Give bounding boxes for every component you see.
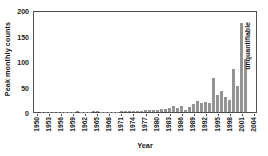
x-axis-tick-label: 2001 — [239, 117, 246, 132]
bar — [120, 111, 123, 112]
y-axis-tick-label: 100 — [17, 59, 29, 66]
bar — [68, 112, 71, 113]
x-axis-tick-label: 1959 — [70, 117, 77, 132]
bar — [204, 102, 207, 112]
bar — [160, 109, 163, 113]
bar — [64, 112, 67, 113]
bar — [232, 69, 235, 112]
y-axis-title-text: Peak monthly counts — [3, 22, 12, 96]
y-axis-tick-label: 150 — [17, 33, 29, 40]
bar — [200, 103, 203, 113]
bar — [220, 91, 223, 113]
x-axis-tick-label: 1950 — [34, 117, 41, 132]
bar-slot — [251, 12, 255, 112]
bar-series — [34, 12, 256, 112]
bar-chart: Peak monthly counts 050100150200 unquant… — [0, 0, 268, 156]
bar — [116, 112, 119, 113]
bar — [148, 110, 151, 112]
y-axis-title: Peak monthly counts — [0, 0, 14, 118]
bar — [132, 111, 135, 112]
x-axis-tick-labels: 1950195319561959196219651968197119741977… — [33, 114, 257, 140]
y-axis-tick-label: 200 — [17, 8, 29, 15]
x-axis-tick-label: 1974 — [130, 117, 137, 132]
x-axis-tick-label: 1986 — [178, 117, 185, 132]
bar — [208, 103, 211, 113]
bar — [124, 111, 127, 112]
y-axis-tick-labels: 050100150200 — [14, 6, 31, 116]
bar — [57, 112, 60, 113]
x-axis-tick-label: 1998 — [227, 117, 234, 132]
bar — [164, 109, 167, 112]
x-axis-tick-label: 1983 — [166, 117, 173, 132]
bar — [76, 111, 79, 112]
bar — [196, 101, 199, 112]
bar — [88, 112, 91, 113]
bar — [136, 111, 139, 113]
x-axis-tick-label: 1968 — [106, 117, 113, 132]
x-axis-title: Year — [33, 141, 257, 150]
bar — [176, 108, 179, 112]
bar — [45, 112, 48, 113]
unquantifiable-annotation: unquantifiable — [244, 22, 251, 108]
bar — [49, 112, 52, 113]
bar — [108, 112, 111, 113]
x-axis-tick-label: 1962 — [82, 117, 89, 132]
x-axis-tick-label: 1971 — [118, 117, 125, 132]
x-axis-tick-label: 1995 — [215, 117, 222, 132]
bar — [240, 23, 243, 113]
bar — [100, 112, 103, 113]
x-axis-tick-label: 1953 — [46, 117, 53, 132]
x-axis-tick-label: 1992 — [202, 117, 209, 132]
bar — [168, 108, 171, 113]
y-axis-tick-label: 0 — [25, 110, 29, 117]
bar — [192, 104, 195, 112]
bar — [216, 95, 219, 113]
bar — [104, 112, 107, 113]
unquantifiable-annotation-text: unquantifiable — [244, 22, 251, 70]
bar — [144, 110, 147, 112]
x-axis-tick-label: 2004 — [251, 117, 258, 132]
bar — [224, 97, 227, 112]
bar — [228, 100, 231, 112]
bar — [236, 86, 239, 113]
bar — [96, 111, 99, 112]
bar — [188, 107, 191, 113]
plot-area: unquantifiable — [33, 11, 257, 113]
x-axis-tick-label: 1980 — [154, 117, 161, 132]
x-axis-tick-label: 1977 — [142, 117, 149, 132]
bar — [128, 111, 131, 112]
bar — [41, 112, 44, 113]
x-axis-tick-label: 1956 — [58, 117, 65, 132]
bar — [152, 110, 155, 112]
bar — [72, 112, 75, 113]
bar — [184, 110, 187, 113]
bar — [84, 112, 87, 113]
bar — [92, 111, 95, 112]
bar — [172, 106, 175, 113]
x-axis-tick-label: 1989 — [190, 117, 197, 132]
y-axis-tick-label: 50 — [21, 84, 29, 91]
bar — [53, 112, 56, 113]
bar — [180, 106, 183, 113]
bar — [156, 110, 159, 113]
bar — [112, 112, 115, 113]
bar — [140, 111, 143, 113]
bar — [80, 112, 83, 113]
bar — [212, 78, 215, 112]
x-axis-tick-label: 1965 — [94, 117, 101, 132]
bar — [61, 112, 64, 113]
